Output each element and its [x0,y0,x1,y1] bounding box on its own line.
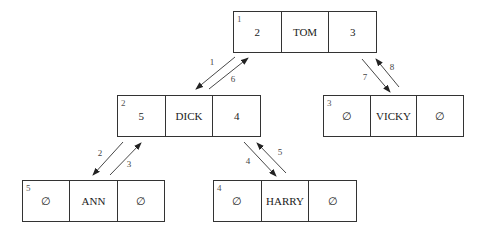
left-pointer-cell: 5 ∅ [23,181,69,221]
right-pointer-cell: ∅ [117,181,164,221]
arrow-step-label: 4 [246,156,251,166]
left-pointer-cell: 4 ∅ [214,181,261,221]
left-pointer-value: 2 [255,26,261,38]
name-cell: ANN [69,181,116,221]
name-cell: TOM [281,12,329,52]
tree-node-harry: 4 ∅ HARRY ∅ [213,180,357,222]
node-name: HARRY [266,195,304,207]
node-name: ANN [82,195,106,207]
right-pointer-value: 4 [234,110,240,122]
node-index: 5 [26,183,31,193]
arrow-ann-to-dick [110,143,141,175]
arrow-step-label: 6 [231,74,236,84]
right-pointer-value: ∅ [435,110,445,123]
node-index: 4 [217,183,222,193]
arrow-step-label: 1 [210,57,215,67]
node-name: DICK [176,110,203,122]
left-pointer-value: ∅ [232,195,242,208]
right-pointer-value: ∅ [328,195,338,208]
arrow-step-label: 5 [278,147,283,157]
node-index: 3 [327,98,332,108]
tree-node-tom: 1 2 TOM 3 [233,11,377,53]
left-pointer-value: ∅ [342,110,352,123]
right-pointer-value: 3 [350,26,356,38]
arrow-step-label: 2 [98,148,103,158]
arrow-dick-to-ann [93,142,123,175]
right-pointer-cell: ∅ [416,96,463,136]
tree-node-ann: 5 ∅ ANN ∅ [22,180,165,222]
node-name: TOM [293,26,317,38]
left-pointer-value: ∅ [41,195,51,208]
right-pointer-value: ∅ [136,195,146,208]
left-pointer-cell: 2 5 [118,96,165,136]
arrow-step-label: 7 [363,72,368,82]
left-pointer-value: 5 [139,110,145,122]
right-pointer-cell: 3 [328,12,376,52]
right-pointer-cell: ∅ [308,181,356,221]
node-index: 1 [237,14,242,24]
tree-node-vicky: 3 ∅ VICKY ∅ [323,95,464,137]
node-index: 2 [121,98,126,108]
arrow-step-label: 3 [127,159,132,169]
right-pointer-cell: 4 [212,96,260,136]
node-name: VICKY [376,110,411,122]
tree-node-dick: 2 5 DICK 4 [117,95,261,137]
arrow-vicky-to-tom [376,59,399,87]
name-cell: VICKY [370,96,417,136]
left-pointer-cell: 3 ∅ [324,96,370,136]
name-cell: HARRY [261,181,309,221]
name-cell: DICK [165,96,213,136]
arrow-step-label: 8 [390,62,395,72]
left-pointer-cell: 1 2 [234,12,281,52]
